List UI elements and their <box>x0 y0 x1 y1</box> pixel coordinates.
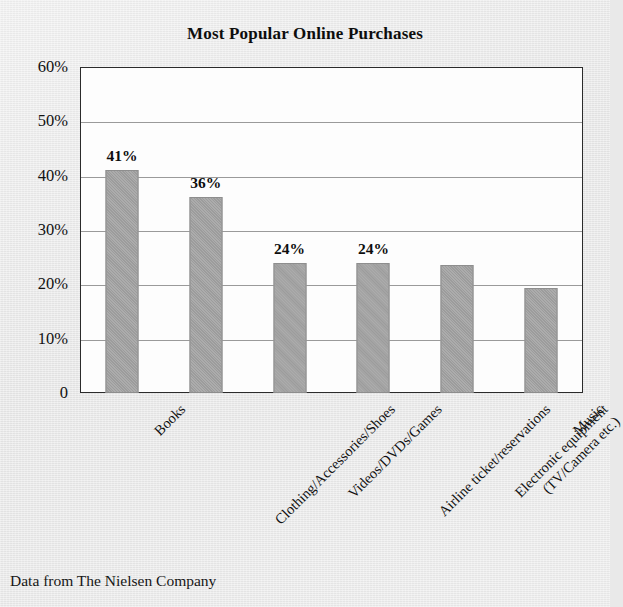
bar-value-label: 24% <box>358 240 389 258</box>
x-axis: BooksClothing/Accessories/ShoesVideos/DV… <box>80 393 583 553</box>
source-note: Data from The Nielsen Company <box>10 572 216 590</box>
y-tick-label: 50% <box>38 111 68 131</box>
bar-slot: 24% <box>248 67 332 393</box>
y-tick-label: 30% <box>38 220 68 240</box>
bar-value-label: 41% <box>106 147 137 165</box>
bar[interactable] <box>105 170 138 393</box>
bars-container: 41%36%24%24% <box>80 67 583 393</box>
y-tick-label: 0 <box>60 383 68 403</box>
bar-value-label: 36% <box>190 174 221 192</box>
bar[interactable] <box>273 263 306 393</box>
chart-title: Most Popular Online Purchases <box>0 24 610 44</box>
bar-slot: 41% <box>80 67 164 393</box>
y-tick-label: 40% <box>38 166 68 186</box>
y-tick-label: 60% <box>38 57 68 77</box>
bar-slot <box>415 67 499 393</box>
y-axis: 010%20%30%40%50%60% <box>0 67 74 393</box>
bar-slot: 24% <box>332 67 416 393</box>
y-tick-label: 20% <box>38 274 68 294</box>
bar-slot <box>499 67 583 393</box>
x-tick-label: Books <box>151 401 189 439</box>
bar[interactable] <box>525 288 558 393</box>
bar-value-label: 24% <box>274 240 305 258</box>
bar[interactable] <box>189 197 222 393</box>
y-tick-label: 10% <box>38 329 68 349</box>
bar-slot: 36% <box>164 67 248 393</box>
bar[interactable] <box>357 263 390 393</box>
bar[interactable] <box>441 265 474 393</box>
